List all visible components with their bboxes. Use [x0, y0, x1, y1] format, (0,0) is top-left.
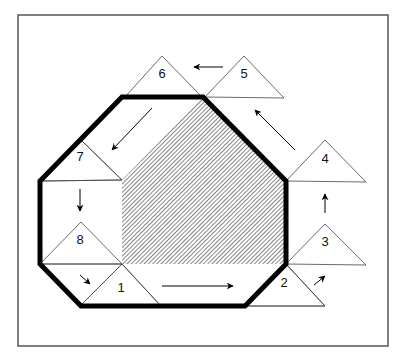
octagon-diagram: 12345678 [0, 0, 409, 364]
triangle-label-8: 8 [76, 232, 83, 247]
triangle-label-7: 7 [76, 149, 83, 164]
triangle-label-3: 3 [321, 234, 328, 249]
arrow-6-to-7-icon [112, 108, 152, 150]
triangle-label-5: 5 [240, 66, 247, 81]
triangle-label-4: 4 [321, 151, 328, 166]
triangle-label-1: 1 [117, 280, 124, 295]
arrow-4-to-5-icon [255, 110, 295, 150]
triangle-label-2: 2 [280, 275, 287, 290]
arrow-2-to-3-icon [314, 276, 325, 285]
arrow-8-to-1-icon [80, 275, 90, 284]
triangle-label-6: 6 [158, 66, 165, 81]
hatched-region [122, 97, 286, 264]
